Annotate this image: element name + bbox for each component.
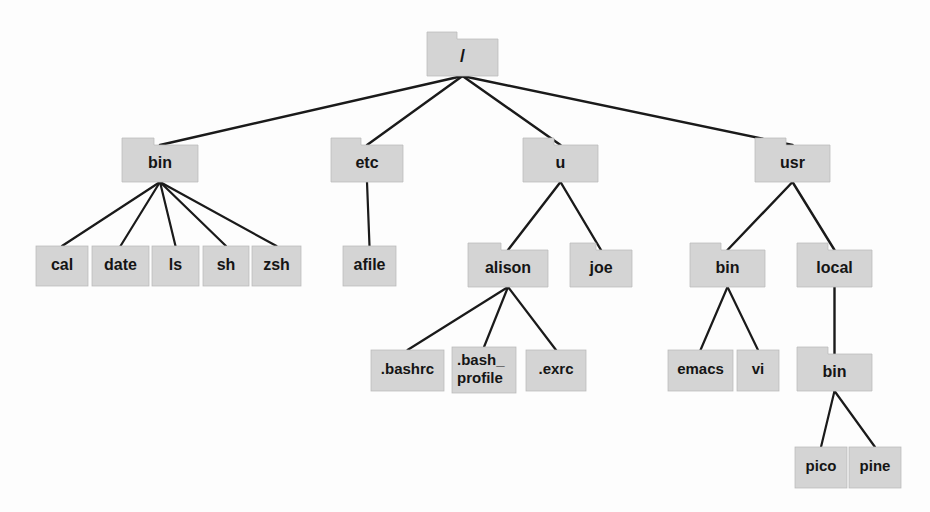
tree-edge <box>160 76 463 145</box>
node-label-bashrc: .bashrc <box>381 360 434 377</box>
file-node-vi[interactable]: vi <box>737 350 779 391</box>
tree-edge <box>408 287 509 350</box>
tree-edge <box>561 182 602 250</box>
file-node-pico[interactable]: pico <box>795 447 847 488</box>
node-label-root: / <box>460 46 465 66</box>
node-label-etc: etc <box>355 154 378 171</box>
folder-node-root[interactable]: / <box>427 32 498 76</box>
tree-edge <box>160 182 176 246</box>
filesystem-tree-diagram: /binetcuusrcaldatelsshzshafilealisonjoeb… <box>0 0 930 512</box>
node-label-exrc: .exrc <box>538 360 573 377</box>
tree-edge <box>821 391 835 447</box>
file-node-exrc[interactable]: .exrc <box>526 350 586 391</box>
node-label-pine: pine <box>860 457 891 474</box>
file-node-bashrc[interactable]: .bashrc <box>371 350 444 391</box>
node-label-date: date <box>104 256 137 273</box>
node-label-zsh: zsh <box>263 256 290 273</box>
tree-edge <box>484 287 508 347</box>
node-label-usrbin: bin <box>716 259 740 276</box>
node-label-bashprofile-line-2: profile <box>457 369 503 386</box>
node-label-usr: usr <box>780 154 805 171</box>
tree-edge <box>367 182 370 246</box>
node-label-sh: sh <box>217 256 236 273</box>
tree-edge <box>121 182 161 246</box>
tree-edge <box>160 182 277 246</box>
tree-canvas: /binetcuusrcaldatelsshzshafilealisonjoeb… <box>0 0 930 512</box>
tree-edge <box>835 391 876 447</box>
tree-edge <box>508 287 556 350</box>
node-label-vi: vi <box>752 360 765 377</box>
node-label-local: local <box>816 259 852 276</box>
node-label-localbin: bin <box>823 363 847 380</box>
node-label-joe: joe <box>588 259 612 276</box>
file-node-bashprofile[interactable]: .bash_profile <box>452 347 516 393</box>
tree-edge <box>793 182 835 250</box>
file-node-afile[interactable]: afile <box>343 246 396 286</box>
node-label-cal: cal <box>51 256 73 273</box>
tree-edge <box>728 287 759 350</box>
node-label-pico: pico <box>806 457 837 474</box>
file-node-date[interactable]: date <box>92 246 149 286</box>
node-label-emacs: emacs <box>677 360 724 377</box>
node-label-alison: alison <box>485 259 531 276</box>
node-label-bin: bin <box>148 154 172 171</box>
node-label-ls: ls <box>169 256 182 273</box>
node-label-afile: afile <box>353 256 385 273</box>
file-node-zsh[interactable]: zsh <box>252 246 301 286</box>
tree-edge <box>701 287 728 350</box>
file-node-sh[interactable]: sh <box>203 246 249 286</box>
file-node-emacs[interactable]: emacs <box>668 350 733 391</box>
tree-edge <box>508 182 561 250</box>
file-node-ls[interactable]: ls <box>152 246 199 286</box>
node-label-u: u <box>556 154 566 171</box>
tree-edge <box>728 182 793 250</box>
file-node-cal[interactable]: cal <box>36 246 88 286</box>
tree-edge <box>62 182 160 246</box>
node-label-bashprofile-line-1: .bash_ <box>457 351 505 368</box>
file-node-pine[interactable]: pine <box>849 447 901 488</box>
nodes-layer: /binetcuusrcaldatelsshzshafilealisonjoeb… <box>36 32 901 488</box>
